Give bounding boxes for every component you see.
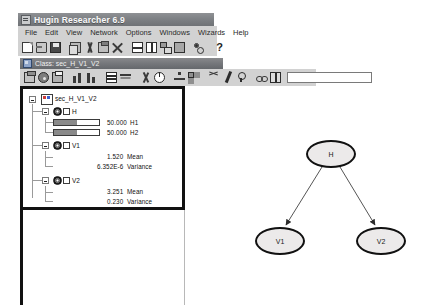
graph-node-h[interactable]: H: [306, 140, 356, 168]
title-bar: Hugin Researcher 6.9: [18, 13, 214, 26]
state-label-h1: H1: [130, 119, 138, 126]
book-icon[interactable]: [269, 71, 282, 84]
lower-left-pane: [20, 210, 185, 305]
node-checkbox-v2[interactable]: [63, 177, 70, 184]
toolbar-separator: [125, 41, 130, 54]
open-folder-icon[interactable]: [35, 41, 48, 54]
tree-icon[interactable]: [173, 71, 186, 84]
save-disk-icon[interactable]: [49, 41, 62, 54]
application-window: Hugin Researcher 6.9 File Edit View Netw…: [18, 13, 444, 305]
toolbar-separator: [65, 71, 70, 84]
menu-item-windows[interactable]: Windows: [156, 28, 194, 37]
question-mark-icon[interactable]: ?: [213, 41, 226, 54]
tree-connector: [33, 180, 42, 181]
filled-panel-icon[interactable]: [173, 41, 186, 54]
tree-node-label-h[interactable]: H: [72, 108, 77, 115]
network-canvas[interactable]: H V1 V2: [185, 86, 444, 305]
tree-connector: [46, 122, 53, 123]
tree-connector: [46, 201, 53, 202]
link-icon[interactable]: [255, 71, 268, 84]
edge-h-v1: [286, 167, 322, 225]
tree-connector: [46, 166, 53, 167]
tree-toggle-h[interactable]: [42, 108, 49, 115]
menu-item-options[interactable]: Options: [122, 28, 156, 37]
copy-icon[interactable]: [69, 41, 82, 54]
graph-node-v1[interactable]: V1: [255, 227, 305, 255]
tree-branch-line: [45, 186, 46, 202]
grid-icon[interactable]: [187, 71, 200, 84]
node-checkbox-h[interactable]: [63, 108, 70, 115]
scissors-icon[interactable]: [139, 71, 152, 84]
menu-item-help[interactable]: Help: [229, 28, 252, 37]
print-icon[interactable]: [51, 71, 64, 84]
paste-clipboard-icon[interactable]: [97, 41, 110, 54]
toolbar-separator: [201, 71, 206, 84]
open-class-icon[interactable]: [23, 71, 36, 84]
delete-x-icon[interactable]: [111, 41, 124, 54]
y-branch-icon[interactable]: [207, 71, 220, 84]
cut-scissors-icon[interactable]: [83, 41, 96, 54]
network-nodes-icon[interactable]: [159, 41, 172, 54]
horizontal-split-icon[interactable]: [131, 41, 144, 54]
compile-disk-icon[interactable]: [37, 71, 50, 84]
state-value-h2: 50.000: [107, 129, 127, 136]
stat-label-v1-mean: Mean: [127, 153, 143, 160]
table-icon[interactable]: [105, 71, 118, 84]
node-checkbox-v1[interactable]: [63, 142, 70, 149]
document-window-title: Class: sec_H_V1_V2: [35, 60, 99, 67]
menu-item-view[interactable]: View: [62, 28, 86, 37]
menu-item-file[interactable]: File: [21, 28, 41, 37]
tree-connector: [46, 132, 53, 133]
document-toolbar: [20, 69, 316, 86]
tree-connector: [33, 145, 42, 146]
edge-h-v2: [340, 167, 375, 225]
tree-toggle-root[interactable]: [29, 96, 36, 103]
toolbar-separator: [63, 41, 68, 54]
tree-connector: [46, 192, 53, 193]
toolbar-separator: [99, 71, 104, 84]
tree-toggle-v2[interactable]: [42, 177, 49, 184]
continuous-node-icon: [53, 176, 62, 185]
run-propagate-icon[interactable]: [153, 71, 166, 84]
document-icon: [23, 59, 32, 68]
menu-item-wizards[interactable]: Wizards: [194, 28, 229, 37]
menu-bar: File Edit View Network Options Windows W…: [18, 26, 217, 38]
menu-item-edit[interactable]: Edit: [41, 28, 62, 37]
left-border: [20, 210, 23, 305]
stat-value-v1-mean: 1.520: [107, 153, 123, 160]
class-root-icon: [41, 94, 53, 105]
toolbar-separator: [133, 71, 138, 84]
continuous-node-icon: [53, 141, 62, 150]
state-bar-fill-h2: [54, 130, 77, 135]
graph-node-v2[interactable]: V2: [356, 227, 406, 255]
lightbulb-icon[interactable]: [235, 71, 248, 84]
list-lines-icon[interactable]: [119, 71, 132, 84]
tree-node-label-v2[interactable]: V2: [72, 177, 80, 184]
tree-root-label[interactable]: sec_H_V1_V2: [55, 95, 97, 102]
document-window-title-bar: Class: sec_H_V1_V2: [20, 58, 223, 69]
main-toolbar: ?: [18, 38, 217, 56]
stat-value-v2-variance: 0.230: [107, 198, 123, 205]
tree-node-label-v1[interactable]: V1: [72, 142, 80, 149]
state-value-h1: 50.000: [107, 119, 127, 126]
app-icon: [21, 15, 31, 25]
node-list-panel[interactable]: sec_H_V1_V2 H 50.000 H1 50.000 H2 V1: [20, 86, 185, 210]
tree-trunk-line: [32, 104, 33, 198]
stat-value-v2-mean: 3.251: [107, 188, 123, 195]
bar-chart-up-icon[interactable]: [71, 71, 84, 84]
search-input[interactable]: [287, 72, 372, 83]
bar-chart-down-icon[interactable]: [85, 71, 98, 84]
tree-toggle-v1[interactable]: [42, 142, 49, 149]
pen-icon[interactable]: [221, 71, 234, 84]
toolbar-separator: [249, 71, 254, 84]
state-bar-fill-h1: [54, 120, 77, 125]
graph-node-label-h: H: [328, 151, 333, 158]
vertical-split-icon[interactable]: [145, 41, 158, 54]
new-document-icon[interactable]: [21, 41, 34, 54]
toolbar-separator: [167, 71, 172, 84]
graph-structure-icon[interactable]: [193, 41, 206, 54]
state-bar-h1: [53, 119, 100, 126]
menu-item-network[interactable]: Network: [86, 28, 122, 37]
discrete-node-icon: [53, 107, 62, 116]
tree-branch-line: [45, 151, 46, 167]
